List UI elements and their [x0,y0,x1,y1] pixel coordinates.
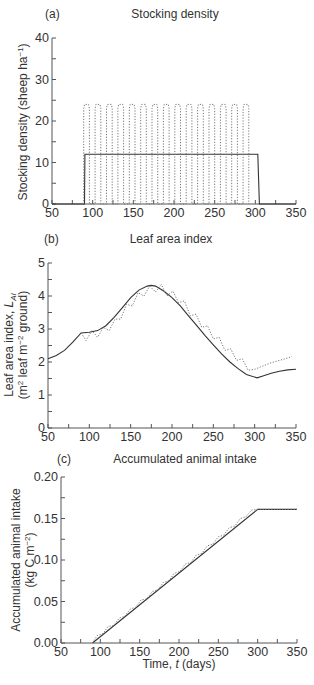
y-tick-label: 0.10 [34,553,58,567]
x-tick-label: 100 [79,430,100,444]
x-tick-label: 300 [245,206,266,220]
x-tick-label: 100 [82,206,103,220]
x-tick-label: 350 [287,645,308,659]
y-tick-label: 40 [35,31,49,45]
panel-c-title: Accumulated animal intake [113,452,257,466]
series-continuous-solid [52,154,296,204]
y-tick-label: 10 [35,156,49,170]
x-tick-label: 200 [164,206,185,220]
x-tick-label: 350 [286,206,307,220]
x-tick-label: 200 [169,645,190,659]
x-tick-label: 150 [129,645,150,659]
panel-c-ylabel-line1: Accumulated animal intake [9,488,23,632]
y-tick-label: 1 [38,388,45,402]
x-tick-label: 300 [244,430,265,444]
panel-a-plot [52,104,296,204]
y-tick-label: 0.15 [34,512,58,526]
x-tick-label: 150 [120,430,141,444]
x-tick-label: 250 [203,430,224,444]
x-tick-label: 200 [162,430,183,444]
x-tick-label: 350 [286,430,307,444]
x-tick-label: 250 [204,206,225,220]
y-tick-label: 20 [35,114,49,128]
series-rotational-dotted [93,509,298,643]
series-continuous-solid [48,285,296,377]
panel-b-axes: 50100150200250300350012345 [38,256,306,444]
x-tick-label: 250 [208,645,229,659]
panel-b-title: Leaf area index [130,232,213,246]
panel-b-plot [48,285,296,378]
panel-a-ylabel: Stocking density (sheep ha−1) [16,43,30,200]
y-tick-label: 0.20 [34,470,58,484]
panel-a-axes: 50100150200250300350010203040 [35,31,306,220]
panel-a-stocking-density: (a) Stocking density Stocking density (s… [16,7,306,220]
panel-c-label: (c) [57,452,71,466]
y-tick-label: 2 [38,355,45,369]
y-tick-label: 0.00 [34,636,58,650]
y-tick-label: 0.05 [34,595,58,609]
x-tick-label: 100 [90,645,111,659]
panel-a-title: Stocking density [131,7,218,21]
y-tick-label: 4 [38,289,45,303]
panel-b-label: (b) [44,232,59,246]
series-rotational-dotted [81,285,292,371]
y-tick-label: 30 [35,73,49,87]
y-tick-label: 0 [38,421,45,435]
y-tick-label: 0 [42,197,49,211]
panel-c-xlabel: Time, t (days) [143,657,216,671]
panel-b-ylabel-line2: (m2 leaf m−2 ground) [16,291,30,399]
series-continuous-solid [93,509,298,643]
x-tick-label: 300 [247,645,268,659]
panel-c-axes: 501001502002503003500.000.050.100.150.20 [34,470,308,659]
figure: (a) Stocking density Stocking density (s… [0,0,314,685]
panel-c-accumulated-intake: (c) Accumulated animal intake Accumulate… [9,452,307,671]
panel-c-plot [93,509,298,643]
panel-b-leaf-area-index: (b) Leaf area index Leaf area index, LAI… [2,232,306,444]
panel-a-label: (a) [45,7,60,21]
y-tick-label: 3 [38,322,45,336]
x-tick-label: 150 [123,206,144,220]
y-tick-label: 5 [38,256,45,270]
